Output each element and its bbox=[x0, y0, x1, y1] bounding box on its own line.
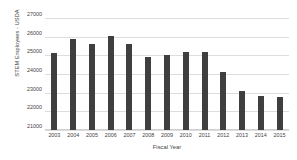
bar-2013 bbox=[239, 91, 245, 130]
bar-2012 bbox=[220, 72, 226, 130]
x-axis-tick-2005: 2005 bbox=[83, 132, 102, 139]
bar-2011 bbox=[202, 52, 208, 130]
bar-slot-2010 bbox=[176, 18, 195, 130]
x-axis-tick-labels: 2003200420052006200720082009201020112012… bbox=[45, 132, 289, 139]
bar-slot-2007 bbox=[120, 18, 139, 130]
bar-2008 bbox=[145, 57, 151, 130]
bar-2010 bbox=[183, 52, 189, 130]
bar-slot-2013 bbox=[233, 18, 252, 130]
y-axis-tick-26000: 26000 bbox=[18, 30, 42, 36]
x-axis-tick-2004: 2004 bbox=[64, 132, 83, 139]
bar-slot-2006 bbox=[101, 18, 120, 130]
y-axis-tick-labels: 27000260002500024000230002200021000 bbox=[18, 14, 42, 131]
bar-slot-2004 bbox=[64, 18, 83, 130]
y-axis-tick-25000: 25000 bbox=[18, 48, 42, 54]
x-axis-tick-2007: 2007 bbox=[120, 132, 139, 139]
bar-chart: STEM Employees - USDA 270002600025000240… bbox=[0, 0, 297, 160]
x-axis-title: Fiscal Year bbox=[45, 144, 289, 150]
bar-slot-2009 bbox=[158, 18, 177, 130]
x-axis-tick-2011: 2011 bbox=[195, 132, 214, 139]
bar-2005 bbox=[89, 44, 95, 130]
bar-slot-2005 bbox=[83, 18, 102, 130]
y-axis-tick-27000: 27000 bbox=[18, 11, 42, 17]
x-axis-tick-2015: 2015 bbox=[270, 132, 289, 139]
bar-slot-2011 bbox=[195, 18, 214, 130]
bar-slot-2008 bbox=[139, 18, 158, 130]
bar-slot-2012 bbox=[214, 18, 233, 130]
gridline-21000 bbox=[45, 130, 289, 131]
y-axis-tick-23000: 23000 bbox=[18, 86, 42, 92]
bar-2015 bbox=[277, 97, 283, 130]
bar-2014 bbox=[258, 96, 264, 130]
bar-2006 bbox=[108, 36, 114, 130]
x-axis-tick-2013: 2013 bbox=[233, 132, 252, 139]
y-axis-tick-21000: 21000 bbox=[18, 123, 42, 129]
x-axis-tick-2009: 2009 bbox=[158, 132, 177, 139]
x-axis-tick-2012: 2012 bbox=[214, 132, 233, 139]
x-axis-tick-2003: 2003 bbox=[45, 132, 64, 139]
y-axis-tick-24000: 24000 bbox=[18, 67, 42, 73]
x-axis-tick-2010: 2010 bbox=[176, 132, 195, 139]
bar-2003 bbox=[51, 53, 57, 130]
bar-2007 bbox=[126, 44, 132, 130]
bar-2004 bbox=[70, 39, 76, 130]
x-axis-tick-2006: 2006 bbox=[101, 132, 120, 139]
x-axis-tick-2014: 2014 bbox=[251, 132, 270, 139]
bar-slot-2003 bbox=[45, 18, 64, 130]
y-axis-tick-22000: 22000 bbox=[18, 104, 42, 110]
bar-slot-2015 bbox=[270, 18, 289, 130]
x-axis-tick-2008: 2008 bbox=[139, 132, 158, 139]
bar-2009 bbox=[164, 55, 170, 130]
bar-slot-2014 bbox=[251, 18, 270, 130]
bar-series bbox=[45, 18, 289, 130]
